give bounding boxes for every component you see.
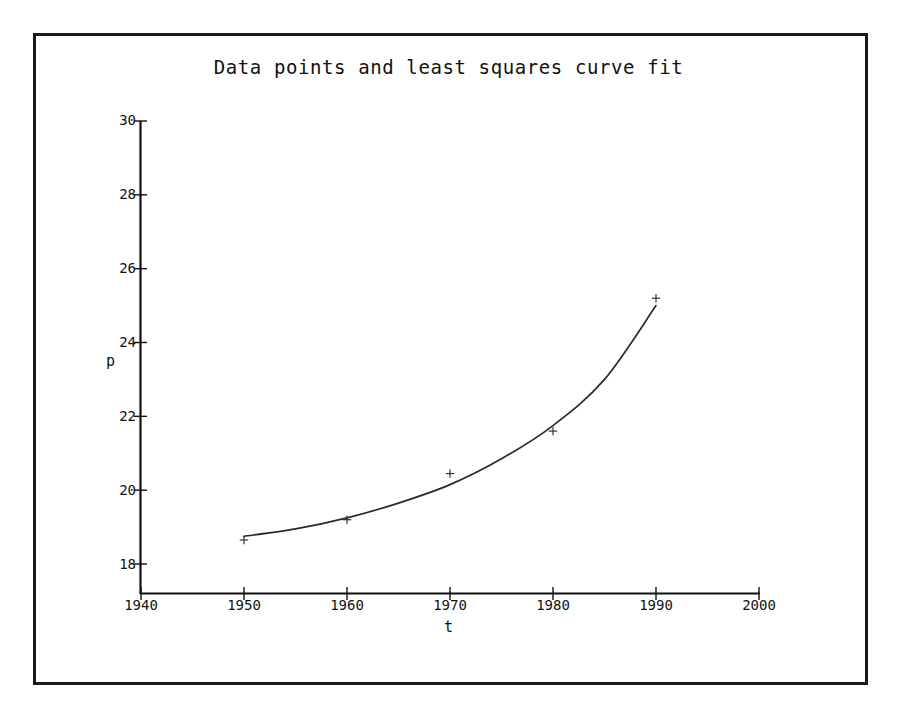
y-tick-label-28: 28 — [102, 186, 136, 202]
y-axis-label: p — [106, 352, 115, 370]
x-tick-label-1990: 1990 — [628, 597, 684, 613]
y-tick-label-30: 30 — [102, 112, 136, 128]
figure-border — [33, 33, 868, 685]
x-tick-label-1980: 1980 — [525, 597, 581, 613]
y-tick-label-26: 26 — [102, 260, 136, 276]
figure-page: Data points and least squares curve fit … — [0, 0, 897, 713]
x-tick-label-2000: 2000 — [731, 597, 787, 613]
y-tick-label-18: 18 — [102, 556, 136, 572]
y-tick-label-24: 24 — [102, 334, 136, 350]
chart-title: Data points and least squares curve fit — [0, 56, 897, 78]
y-tick-label-22: 22 — [102, 408, 136, 424]
x-tick-label-1970: 1970 — [422, 597, 478, 613]
x-axis-label: t — [0, 618, 897, 636]
x-tick-label-1960: 1960 — [319, 597, 375, 613]
x-tick-label-1940: 1940 — [113, 597, 169, 613]
x-tick-label-1950: 1950 — [216, 597, 272, 613]
y-tick-label-20: 20 — [102, 482, 136, 498]
